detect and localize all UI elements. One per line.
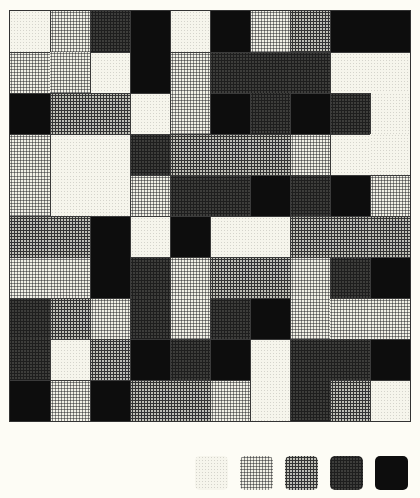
tile-r3-c8 (330, 134, 370, 175)
tile-r5-c1 (50, 216, 90, 257)
tile-r1-c4 (170, 52, 210, 93)
tile-r6-c8 (330, 257, 370, 298)
tile-r3-c5 (210, 134, 250, 175)
tile-r2-c3 (130, 93, 170, 134)
tile-r0-c9 (370, 11, 410, 52)
tile-r6-c9 (370, 257, 410, 298)
tile-r0-c0 (10, 11, 50, 52)
tile-r1-c9 (370, 52, 410, 93)
tile-r7-c7 (290, 298, 330, 339)
tile-r7-c0 (10, 298, 50, 339)
tile-r2-c5 (210, 93, 250, 134)
tile-r7-c9 (370, 298, 410, 339)
tile-r6-c4 (170, 257, 210, 298)
tile-r2-c1 (50, 93, 90, 134)
tile-r3-c4 (170, 134, 210, 175)
tile-r8-c4 (170, 339, 210, 380)
tile-r2-c9 (370, 93, 410, 134)
tile-r8-c8 (330, 339, 370, 380)
tile-r9-c2 (90, 380, 130, 421)
tile-r8-c3 (130, 339, 170, 380)
tile-r6-c2 (90, 257, 130, 298)
tile-r8-c5 (210, 339, 250, 380)
tile-r5-c2 (90, 216, 130, 257)
tile-r2-c4 (170, 93, 210, 134)
tile-r4-c4 (170, 175, 210, 216)
tile-r0-c4 (170, 11, 210, 52)
tile-r4-c8 (330, 175, 370, 216)
tile-r7-c4 (170, 298, 210, 339)
tile-r5-c3 (130, 216, 170, 257)
tile-r6-c6 (250, 257, 290, 298)
tile-r1-c7 (290, 52, 330, 93)
tile-r9-c9 (370, 380, 410, 421)
tile-r5-c0 (10, 216, 50, 257)
density-legend (195, 456, 408, 490)
tile-r9-c4 (170, 380, 210, 421)
tile-r1-c5 (210, 52, 250, 93)
tile-r7-c1 (50, 298, 90, 339)
legend-swatch-medium (285, 456, 318, 490)
tile-r7-c2 (90, 298, 130, 339)
tile-r1-c2 (90, 52, 130, 93)
tile-r1-c6 (250, 52, 290, 93)
tile-r1-c8 (330, 52, 370, 93)
tile-r9-c1 (50, 380, 90, 421)
tile-r8-c1 (50, 339, 90, 380)
legend-swatch-light (240, 456, 273, 490)
tile-r4-c7 (290, 175, 330, 216)
tile-r4-c3 (130, 175, 170, 216)
tile-r6-c0 (10, 257, 50, 298)
tile-r9-c5 (210, 380, 250, 421)
tile-r4-c9 (370, 175, 410, 216)
tile-r9-c3 (130, 380, 170, 421)
tile-r2-c8 (330, 93, 370, 134)
tile-r6-c3 (130, 257, 170, 298)
tile-r7-c8 (330, 298, 370, 339)
tile-r5-c5 (210, 216, 250, 257)
tile-r9-c8 (330, 380, 370, 421)
tile-r3-c3 (130, 134, 170, 175)
tile-r0-c7 (290, 11, 330, 52)
tile-r3-c7 (290, 134, 330, 175)
tile-r5-c4 (170, 216, 210, 257)
tile-r6-c7 (290, 257, 330, 298)
tile-r4-c2 (90, 175, 130, 216)
tile-r7-c6 (250, 298, 290, 339)
tile-r4-c5 (210, 175, 250, 216)
tile-r9-c6 (250, 380, 290, 421)
tile-r3-c9 (370, 134, 410, 175)
tile-r5-c8 (330, 216, 370, 257)
halftone-tile-grid (10, 11, 410, 421)
tile-r0-c2 (90, 11, 130, 52)
tile-r4-c6 (250, 175, 290, 216)
tile-r1-c0 (10, 52, 50, 93)
tile-r2-c7 (290, 93, 330, 134)
tile-r9-c7 (290, 380, 330, 421)
tile-r6-c5 (210, 257, 250, 298)
tile-r8-c7 (290, 339, 330, 380)
tile-r3-c1 (50, 134, 90, 175)
tile-r1-c3 (130, 52, 170, 93)
tile-r8-c6 (250, 339, 290, 380)
tile-r6-c1 (50, 257, 90, 298)
tile-r0-c6 (250, 11, 290, 52)
tile-r0-c8 (330, 11, 370, 52)
tile-r8-c9 (370, 339, 410, 380)
tile-r4-c0 (10, 175, 50, 216)
tile-r0-c1 (50, 11, 90, 52)
tile-r2-c6 (250, 93, 290, 134)
tile-r4-c1 (50, 175, 90, 216)
tile-r7-c3 (130, 298, 170, 339)
legend-swatch-lightest (195, 456, 228, 490)
legend-swatch-darkest (375, 456, 408, 490)
tile-r5-c7 (290, 216, 330, 257)
tile-r3-c6 (250, 134, 290, 175)
tile-r2-c0 (10, 93, 50, 134)
tile-r1-c1 (50, 52, 90, 93)
tile-r5-c6 (250, 216, 290, 257)
tile-r3-c0 (10, 134, 50, 175)
tile-r0-c5 (210, 11, 250, 52)
tile-r8-c2 (90, 339, 130, 380)
tile-r2-c2 (90, 93, 130, 134)
